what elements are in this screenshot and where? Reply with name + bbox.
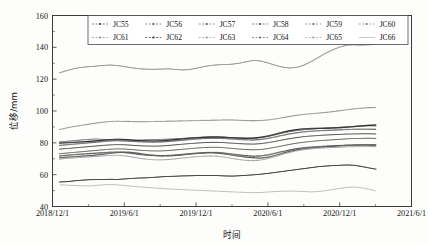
data-marker: [190, 157, 191, 158]
data-marker: [223, 119, 224, 120]
data-marker: [59, 158, 60, 159]
data-marker: [215, 156, 216, 157]
data-marker: [70, 157, 71, 158]
data-marker: [164, 121, 165, 122]
data-marker: [184, 157, 185, 158]
data-marker: [299, 114, 300, 115]
data-marker: [349, 146, 350, 147]
data-marker: [371, 107, 372, 108]
data-marker: [328, 111, 329, 112]
data-marker: [131, 156, 132, 157]
data-marker: [350, 146, 351, 147]
data-marker: [257, 120, 258, 121]
data-marker: [257, 160, 258, 161]
data-marker: [270, 119, 271, 120]
data-marker: [87, 156, 88, 157]
data-marker: [353, 146, 354, 147]
data-marker: [142, 158, 143, 159]
data-marker: [220, 119, 221, 120]
data-marker: [68, 158, 69, 159]
data-marker: [123, 155, 124, 156]
data-marker: [166, 121, 167, 122]
data-marker: [244, 160, 245, 161]
data-marker: [218, 119, 219, 120]
data-marker: [61, 128, 62, 129]
chart-legend[interactable]: JC55JC56JC57JC58JC59JC60JC61JC62JC63JC64…: [88, 16, 408, 45]
data-marker: [270, 157, 271, 158]
legend-label: JC60: [380, 20, 396, 29]
data-marker: [82, 125, 83, 126]
data-marker: [375, 133, 376, 134]
data-marker: [375, 146, 376, 147]
data-marker: [337, 147, 338, 148]
data-marker: [83, 157, 84, 158]
data-marker: [369, 146, 370, 147]
data-marker: [251, 160, 252, 161]
data-marker: [334, 111, 335, 112]
legend-sample-marker: [259, 23, 261, 25]
data-marker: [282, 117, 283, 118]
data-marker: [130, 121, 131, 122]
legend-label: JC62: [166, 33, 182, 42]
data-marker: [291, 151, 292, 152]
data-marker: [243, 120, 244, 121]
data-marker: [224, 119, 225, 120]
data-marker: [183, 157, 184, 158]
data-marker: [219, 119, 220, 120]
data-marker: [290, 116, 291, 117]
data-marker: [341, 110, 342, 111]
data-marker: [199, 156, 200, 157]
data-marker: [154, 121, 155, 122]
data-marker: [277, 118, 278, 119]
data-marker: [324, 112, 325, 113]
data-marker: [285, 153, 286, 154]
data-marker: [205, 156, 206, 157]
data-marker: [176, 120, 177, 121]
data-marker: [108, 121, 109, 122]
data-marker: [144, 121, 145, 122]
data-marker: [135, 157, 136, 158]
data-marker: [119, 155, 120, 156]
data-marker: [140, 121, 141, 122]
data-marker: [293, 151, 294, 152]
data-marker: [320, 112, 321, 113]
data-marker: [255, 160, 256, 161]
data-marker: [81, 125, 82, 126]
data-marker: [153, 159, 154, 160]
data-marker: [282, 154, 283, 155]
data-marker: [140, 158, 141, 159]
data-marker: [320, 148, 321, 149]
data-marker: [304, 149, 305, 150]
data-marker: [124, 155, 125, 156]
data-marker: [132, 156, 133, 157]
data-marker: [364, 107, 365, 108]
data-marker: [327, 147, 328, 148]
data-marker: [357, 146, 358, 147]
data-marker: [124, 121, 125, 122]
data-marker: [107, 155, 108, 156]
data-marker: [286, 153, 287, 154]
data-marker: [238, 159, 239, 160]
data-marker: [259, 120, 260, 121]
data-marker: [339, 147, 340, 148]
data-marker: [69, 158, 70, 159]
data-marker: [177, 120, 178, 121]
data-marker: [269, 157, 270, 158]
data-marker: [129, 156, 130, 157]
data-marker: [370, 107, 371, 108]
data-marker: [158, 159, 159, 160]
data-marker: [185, 157, 186, 158]
data-marker: [150, 121, 151, 122]
data-marker: [222, 119, 223, 120]
data-marker: [348, 146, 349, 147]
y-tick-label: 80: [40, 139, 48, 148]
data-marker: [149, 121, 150, 122]
data-marker: [143, 158, 144, 159]
data-marker: [199, 120, 200, 121]
data-marker: [64, 158, 65, 159]
data-marker: [228, 157, 229, 158]
legend-label: JC59: [326, 20, 342, 29]
data-marker: [242, 120, 243, 121]
legend-box: [88, 16, 408, 45]
data-marker: [317, 113, 318, 114]
